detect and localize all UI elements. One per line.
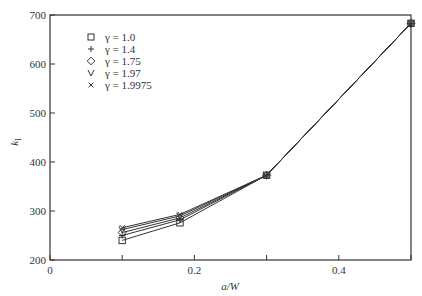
series-line	[122, 23, 411, 229]
series-line	[122, 23, 411, 235]
legend-entry: γ = 1.97	[104, 67, 141, 79]
legend: γ = 1.0γ = 1.4γ = 1.75γ = 1.97γ = 1.9975	[87, 31, 152, 91]
y-tick-label: 500	[30, 107, 47, 119]
y-tick-label: 200	[30, 254, 47, 266]
x-axis-label: a/W	[221, 280, 240, 292]
series-line	[122, 23, 411, 240]
axis-ticks: 00.20.4200300400500600700	[30, 9, 412, 276]
diamond-marker-icon	[87, 57, 95, 65]
v-marker-icon	[88, 70, 94, 76]
y-tick-label: 300	[30, 205, 47, 217]
legend-entry: γ = 1.0	[104, 31, 136, 43]
data-markers	[118, 19, 415, 243]
plus-marker-icon	[88, 46, 94, 52]
x-tick-label: 0.4	[332, 264, 346, 276]
x-marker-icon	[89, 83, 94, 88]
legend-entry: γ = 1.75	[104, 55, 141, 67]
legend-entry: γ = 1.4	[104, 43, 136, 55]
series-lines	[122, 23, 411, 240]
y-tick-label: 400	[30, 156, 47, 168]
y-axis-label: kI	[8, 138, 23, 146]
y-tick-label: 700	[30, 9, 47, 21]
y-tick-label: 600	[30, 58, 47, 70]
x-tick-label: 0.2	[188, 264, 202, 276]
square-marker-icon	[88, 34, 94, 40]
series-line	[122, 23, 411, 227]
x-tick-label: 0	[47, 264, 53, 276]
legend-entry: γ = 1.9975	[104, 79, 152, 91]
series-line	[122, 23, 411, 232]
chart: 00.20.4200300400500600700 γ = 1.0γ = 1.4…	[0, 0, 422, 296]
